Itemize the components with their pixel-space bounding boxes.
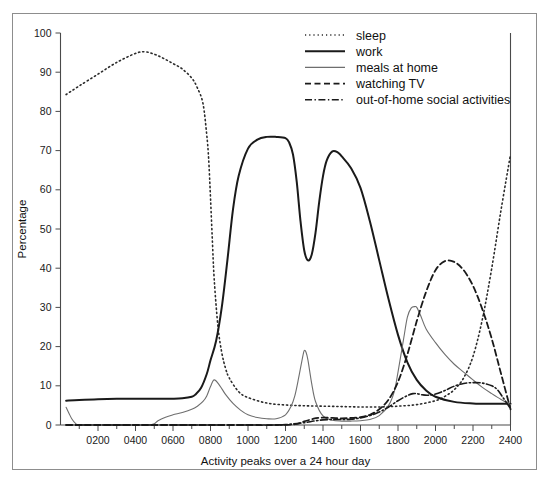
y-tick-label: 90: [40, 66, 52, 78]
x-tick-label: 1600: [349, 434, 373, 446]
y-tick-label: 20: [40, 340, 52, 352]
legend-label: watching TV: [355, 77, 425, 91]
series-line-meals-at-home: [66, 306, 510, 425]
legend-label: sleep: [356, 29, 386, 43]
legend-label: out-of-home social activities: [356, 93, 510, 107]
chart-canvas: 0102030405060708090100020004000600080010…: [0, 0, 549, 487]
x-tick-label: 2400: [499, 434, 523, 446]
series-line-out-of-home-social-activities: [66, 383, 510, 425]
x-tick-label: 0400: [124, 434, 148, 446]
x-tick-label: 2200: [461, 434, 485, 446]
y-tick-label: 40: [40, 262, 52, 274]
tick-label-layer: 0102030405060708090100020004000600080010…: [34, 27, 522, 446]
x-tick-label: 1200: [274, 434, 298, 446]
legend-layer: sleepworkmeals at homewatching TVout-of-…: [305, 29, 510, 108]
y-tick-label: 60: [40, 183, 52, 195]
x-tick-label: 1800: [386, 434, 410, 446]
series-layer: [66, 52, 510, 425]
y-tick-label: 70: [40, 144, 52, 156]
x-axis-title: Activity peaks over a 24 hour day: [201, 455, 371, 467]
y-tick-label: 0: [46, 419, 52, 431]
x-tick-label: 0600: [161, 434, 185, 446]
x-tick-label: 1400: [311, 434, 335, 446]
y-tick-label: 10: [40, 379, 52, 391]
x-tick-label: 1000: [236, 434, 260, 446]
legend-label: work: [355, 45, 383, 59]
figure-root: 0102030405060708090100020004000600080010…: [0, 0, 549, 487]
x-tick-label: 2000: [424, 434, 448, 446]
x-tick-label: 0800: [199, 434, 223, 446]
y-tick-label: 50: [40, 223, 52, 235]
x-tick-label: 0200: [86, 434, 110, 446]
y-tick-label: 80: [40, 105, 52, 117]
y-tick-label: 30: [40, 301, 52, 313]
y-axis-title: Percentage: [16, 200, 28, 259]
series-line-work: [66, 137, 510, 404]
legend-label: meals at home: [356, 61, 438, 75]
y-tick-label: 100: [34, 27, 52, 39]
